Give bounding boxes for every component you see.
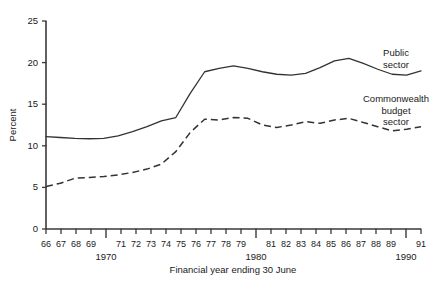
chart-axes [46,21,421,229]
y-tick-label: 25 [27,15,38,26]
x-tick-label: 72 [131,239,141,249]
series-label-group: PublicsectorCommonwealthbudgetsector [363,47,429,127]
x-tick-label: 86 [341,239,351,249]
line-chart: 0510152025 66676869717273747576777879818… [0,0,439,286]
series-label: sector [383,59,409,70]
x-tick-label: 69 [86,239,96,249]
x-decade-label: 1980 [245,251,266,262]
x-tick-label: 81 [266,239,276,249]
x-tick-label: 82 [281,239,291,249]
x-tick-label: 73 [146,239,156,249]
series-paths [46,58,421,186]
x-decade-label: 1970 [95,251,116,262]
series-label: budget [381,105,410,116]
series-line-dashed [46,118,421,187]
x-tick-label: 89 [386,239,396,249]
x-tick-label: 75 [176,239,186,249]
series-label: sector [383,116,409,127]
x-tick-label: 85 [326,239,336,249]
x-axis-title: Financial year ending 30 June [170,264,297,275]
x-tick-label: 79 [236,239,246,249]
x-decade-label: 1990 [395,251,416,262]
y-tick-label: 15 [27,98,38,109]
x-tick-label: 78 [221,239,231,249]
x-tick-label: 84 [311,239,321,249]
x-tick-label: 87 [356,239,366,249]
y-tick-label: 20 [27,57,38,68]
y-tick-label-group: 0510152025 [27,15,38,234]
x-tick-label: 77 [206,239,216,249]
x-tick-label: 74 [161,239,171,249]
y-axis-title: Percent [7,108,18,141]
x-tick-group [46,229,421,239]
x-tick-label: 66 [41,239,51,249]
y-tick-label: 5 [33,181,38,192]
decade-tick-group: 197019801990 [95,251,416,262]
x-tick-label: 83 [296,239,306,249]
series-label: Public [383,47,409,58]
y-tick-label: 10 [27,140,38,151]
x-tick-label: 68 [71,239,81,249]
x-tick-label: 67 [56,239,66,249]
x-tick-label: 91 [416,239,426,249]
x-tick-label: 76 [191,239,201,249]
x-tick-label: 71 [116,239,126,249]
series-label: Commonwealth [363,93,429,104]
chart-container: 0510152025 66676869717273747576777879818… [0,0,439,286]
x-tick-label: 88 [371,239,381,249]
x-tick-label-group: 6667686971727374757677787981828384858687… [41,239,426,249]
y-tick-label: 0 [33,223,38,234]
